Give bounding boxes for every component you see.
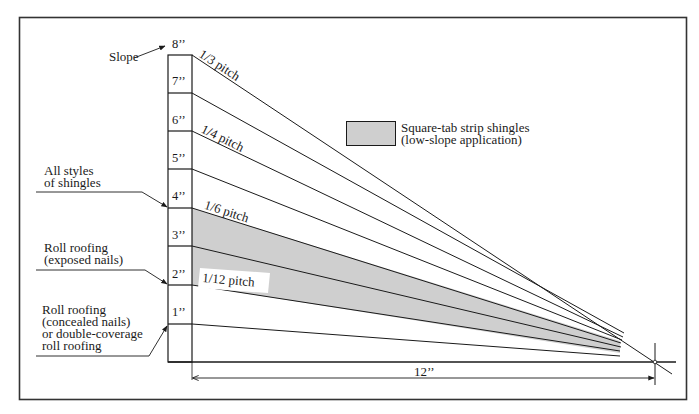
ruler-label-5in: 5’’ [172, 152, 186, 165]
slope-line-3in [192, 246, 621, 347]
ruler-label-3in: 3’’ [172, 229, 186, 242]
callout-roll-exposed-line-2: (exposed nails) [44, 253, 123, 266]
roof-slope-diagram [0, 0, 699, 414]
ruler-label-7in: 7’’ [172, 75, 186, 88]
legend-swatch [347, 122, 396, 146]
slope-label: Slope [109, 50, 139, 63]
ruler-label-2in: 2’’ [172, 268, 186, 281]
callout-leader-roll-exposed [36, 270, 167, 284]
ruler-label-1in: 1’’ [172, 306, 186, 319]
callout-all-styles-line-2: of shingles [44, 176, 101, 189]
run-label: 12’’ [414, 365, 435, 378]
callout-leader-all-styles [36, 192, 167, 207]
callout-roll-concealed-line-4: roll roofing [42, 339, 102, 352]
convergence-point [653, 360, 657, 364]
ruler-label-8in: 8’’ [172, 38, 186, 51]
slope-lines [192, 55, 672, 374]
ruler-label-4in: 4’’ [172, 190, 186, 203]
ruler-label-6in: 6’’ [172, 114, 186, 127]
legend-line-2: (low-slope application) [401, 133, 522, 146]
